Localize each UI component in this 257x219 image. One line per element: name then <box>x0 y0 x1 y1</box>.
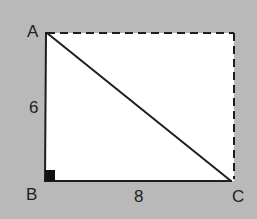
side-length-bc: 8 <box>134 187 143 206</box>
right-triangle-figure: A B C 6 8 <box>0 0 257 219</box>
right-angle-marker <box>45 170 55 181</box>
vertex-label-a: A <box>27 22 39 41</box>
diagram-canvas: A B C 6 8 <box>0 0 257 219</box>
side-length-ab: 6 <box>29 98 38 117</box>
vertex-label-c: C <box>232 187 244 206</box>
vertex-label-b: B <box>26 185 37 204</box>
side-ab <box>45 32 46 182</box>
